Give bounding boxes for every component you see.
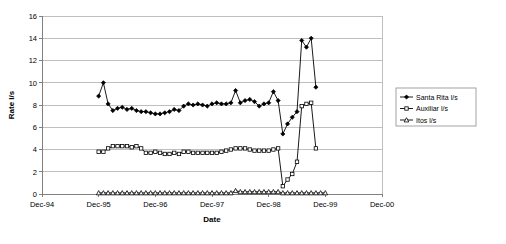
data-point-marker: [286, 178, 289, 181]
data-point-marker: [224, 149, 227, 152]
x-tick-label: Dec-95: [87, 200, 111, 209]
data-point-marker: [172, 107, 176, 111]
data-point-marker: [168, 152, 171, 155]
data-point-marker: [215, 151, 218, 154]
y-axis-title: Rate l/s: [7, 90, 16, 119]
data-point-marker: [248, 97, 252, 101]
data-point-marker: [191, 151, 194, 154]
data-point-marker: [158, 112, 162, 116]
data-point-marker: [281, 132, 285, 136]
data-point-marker: [238, 101, 242, 105]
data-point-marker: [153, 112, 157, 116]
data-point-marker: [163, 111, 167, 115]
series-2: [97, 101, 318, 188]
data-point-marker: [102, 150, 105, 153]
data-point-marker: [115, 106, 119, 110]
y-tick-label: 4: [33, 145, 37, 154]
data-point-marker: [125, 144, 128, 147]
data-point-marker: [229, 101, 233, 105]
data-point-marker: [177, 152, 180, 155]
data-point-marker: [215, 101, 219, 105]
data-point-marker: [300, 104, 303, 107]
data-point-marker: [405, 107, 408, 110]
data-point-marker: [135, 144, 138, 147]
data-point-marker: [206, 151, 209, 154]
data-point-marker: [258, 149, 261, 152]
data-point-marker: [191, 103, 195, 107]
data-point-marker: [272, 148, 275, 151]
y-tick-label: 16: [29, 12, 37, 21]
data-point-marker: [121, 144, 124, 147]
series-line: [99, 103, 316, 186]
x-tick-label: Dec-94: [30, 200, 54, 209]
x-tick-label: Dec-96: [143, 200, 167, 209]
y-tick-label: 10: [29, 79, 37, 88]
x-tick-label: Dec-00: [370, 200, 394, 209]
data-point-marker: [220, 150, 223, 153]
y-tick-label: 8: [33, 101, 37, 110]
data-point-marker: [267, 101, 271, 105]
data-point-marker: [276, 147, 279, 150]
legend-item-label: Itos l/s: [416, 117, 437, 124]
data-point-marker: [271, 90, 275, 94]
data-point-marker: [234, 88, 238, 92]
data-point-marker: [97, 150, 100, 153]
data-point-marker: [106, 147, 109, 150]
data-point-marker: [233, 188, 238, 192]
y-tick-label: 12: [29, 56, 37, 65]
line-chart: 0246810121416Dec-94Dec-95Dec-96Dec-97Dec…: [0, 0, 506, 244]
data-point-marker: [97, 94, 101, 98]
legend: Santa Rita l/sAuxiliar l/sItos l/s: [396, 88, 476, 126]
y-tick-label: 6: [33, 123, 37, 132]
data-point-marker: [305, 102, 308, 105]
data-point-marker: [200, 103, 204, 107]
data-point-marker: [239, 147, 242, 150]
data-point-marker: [210, 151, 213, 154]
data-point-marker: [253, 149, 256, 152]
data-point-marker: [276, 98, 280, 102]
data-point-marker: [196, 151, 199, 154]
data-point-marker: [163, 152, 166, 155]
data-point-marker: [158, 151, 161, 154]
x-axis-title: Date: [203, 215, 221, 224]
data-point-marker: [267, 149, 270, 152]
data-point-marker: [154, 150, 157, 153]
data-point-marker: [187, 150, 190, 153]
data-point-marker: [281, 185, 284, 188]
data-point-marker: [130, 146, 133, 149]
data-point-marker: [149, 111, 153, 115]
data-point-marker: [111, 144, 114, 147]
series-1: [97, 36, 318, 136]
data-point-marker: [167, 110, 171, 114]
chart-container: 0246810121416Dec-94Dec-95Dec-96Dec-97Dec…: [0, 0, 506, 244]
data-point-marker: [314, 147, 317, 150]
y-tick-label: 0: [33, 190, 37, 199]
data-point-marker: [182, 150, 185, 153]
data-point-marker: [243, 147, 246, 150]
data-point-marker: [125, 107, 129, 111]
y-tick-label: 2: [33, 168, 37, 177]
data-point-marker: [243, 98, 247, 102]
data-point-marker: [101, 81, 105, 85]
data-point-marker: [130, 106, 134, 110]
x-tick-label: Dec-99: [313, 200, 337, 209]
legend-item-label: Auxiliar l/s: [416, 105, 448, 112]
series-line: [99, 38, 316, 134]
data-point-marker: [309, 36, 313, 40]
data-point-marker: [134, 108, 138, 112]
data-point-marker: [173, 151, 176, 154]
data-point-marker: [229, 148, 232, 151]
data-point-marker: [139, 110, 143, 114]
data-point-marker: [144, 110, 148, 114]
y-tick-label: 14: [29, 34, 37, 43]
data-point-marker: [262, 149, 265, 152]
legend-item-label: Santa Rita l/s: [416, 94, 458, 101]
data-point-marker: [201, 151, 204, 154]
data-point-marker: [144, 151, 147, 154]
data-point-marker: [116, 144, 119, 147]
data-point-marker: [248, 148, 251, 151]
data-point-marker: [291, 172, 294, 175]
data-point-marker: [295, 160, 298, 163]
series-3: [96, 188, 327, 194]
data-point-marker: [234, 147, 237, 150]
